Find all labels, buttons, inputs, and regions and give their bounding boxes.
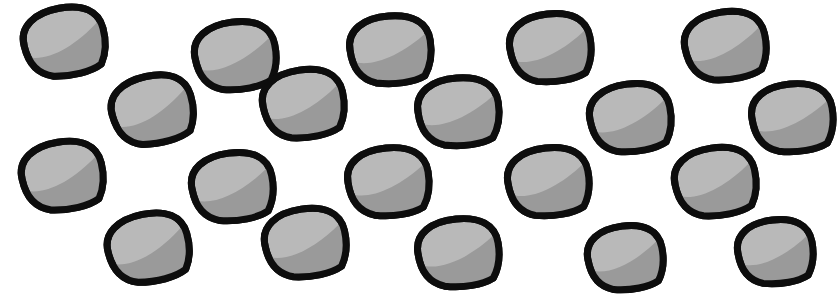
image-canvas [0,0,837,302]
seed-shape [414,214,503,291]
seed-pattern-figure [0,0,837,302]
seed-shape [734,215,817,289]
seed-shape [748,79,837,156]
seed-shape [347,12,435,88]
seed-shape [344,143,433,220]
seed-shape [504,143,594,222]
seed-shape [415,74,503,150]
seed-shape [584,220,668,295]
seed-shape [506,9,596,88]
